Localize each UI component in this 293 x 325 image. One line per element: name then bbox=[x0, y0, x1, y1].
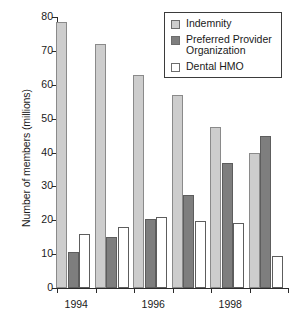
y-axis-title: Number of members (millions) bbox=[20, 58, 32, 258]
x-tick-mark bbox=[250, 288, 251, 293]
bar-indemnity bbox=[95, 44, 106, 288]
bar-ppo bbox=[222, 163, 233, 288]
bar-hmo bbox=[79, 234, 90, 288]
y-tick-label: 20 bbox=[41, 213, 53, 225]
legend-item: Dental HMO bbox=[171, 61, 276, 73]
y-tick-label: 10 bbox=[41, 247, 53, 259]
bar-hmo bbox=[195, 221, 206, 288]
y-tick-label: 0 bbox=[47, 281, 53, 293]
y-tick-label: 30 bbox=[41, 179, 53, 191]
bar-indemnity bbox=[210, 127, 221, 288]
x-tick-mark bbox=[211, 288, 212, 293]
y-tick-label: 80 bbox=[41, 10, 53, 22]
bar-indemnity bbox=[56, 22, 67, 288]
bar-hmo bbox=[272, 256, 283, 288]
bar-indemnity bbox=[172, 95, 183, 288]
y-tick-label: 60 bbox=[41, 78, 53, 90]
x-tick-mark bbox=[96, 288, 97, 293]
legend-item: Indemnity bbox=[171, 18, 276, 30]
y-tick-label: 40 bbox=[41, 146, 53, 158]
legend-swatch-indemnity bbox=[171, 20, 180, 29]
legend-swatch-hmo bbox=[171, 63, 180, 72]
x-tick-mark bbox=[57, 288, 58, 293]
bar-hmo bbox=[118, 227, 129, 288]
bar-ppo bbox=[145, 219, 156, 288]
bar-ppo bbox=[106, 237, 117, 288]
bar-ppo bbox=[260, 136, 271, 288]
x-tick-mark bbox=[288, 288, 289, 293]
bar-hmo bbox=[233, 223, 244, 288]
bar-hmo bbox=[156, 217, 167, 288]
legend-item: Preferred Provider Organization bbox=[171, 34, 276, 57]
x-axis-label: 1996 bbox=[142, 298, 165, 310]
legend-label: Dental HMO bbox=[186, 61, 244, 73]
legend-swatch-ppo bbox=[171, 36, 180, 45]
bar-chart: Number of members (millions) 01020304050… bbox=[0, 0, 293, 325]
bar-indemnity bbox=[133, 75, 144, 288]
bar-ppo bbox=[183, 195, 194, 288]
bar-indemnity bbox=[249, 153, 260, 289]
y-tick-label: 70 bbox=[41, 44, 53, 56]
y-tick-label: 50 bbox=[41, 112, 53, 124]
legend-label: Indemnity bbox=[186, 18, 232, 30]
x-tick-mark bbox=[173, 288, 174, 293]
x-axis-label: 1994 bbox=[65, 298, 88, 310]
x-tick-mark bbox=[134, 288, 135, 293]
bar-ppo bbox=[68, 252, 79, 288]
legend-label: Preferred Provider Organization bbox=[186, 34, 276, 57]
x-axis-label: 1998 bbox=[219, 298, 242, 310]
chart-legend: IndemnityPreferred Provider Organization… bbox=[164, 12, 282, 78]
